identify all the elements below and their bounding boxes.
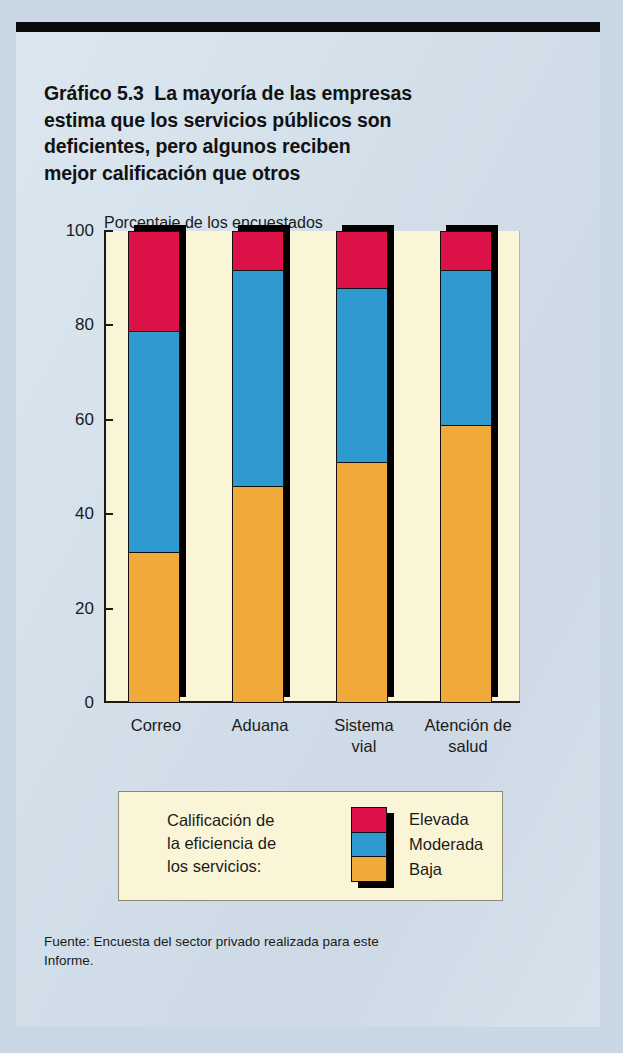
bar-segment-moderada[interactable] [337,288,387,462]
x-axis-tick-label: Atención desalud [410,715,526,757]
x-axis-label-line: vial [306,736,422,757]
bar-group[interactable] [232,231,290,703]
source-note: Fuente: Encuesta del sector privado real… [44,932,494,970]
legend-swatches-stack [351,807,387,882]
legend-swatch-moderada [352,832,386,857]
bar-segment-baja[interactable] [441,425,491,702]
y-axis-tick-label: 0 [46,693,94,713]
bar-group[interactable] [128,231,186,703]
bar-stack[interactable] [440,231,492,703]
source-line: Informe. [44,951,494,970]
y-axis-tick-label: 100 [46,221,94,241]
bar-segment-moderada[interactable] [233,270,283,486]
bar-group[interactable] [440,231,498,703]
bar-segment-elevada[interactable] [233,232,283,270]
legend-caption: Calificación dela eficiencia delos servi… [167,809,276,878]
y-axis-tick-label: 40 [46,504,94,524]
bar-segment-elevada[interactable] [337,232,387,288]
legend-label-elevada: Elevada [409,810,469,829]
x-axis-label-line: Aduana [202,715,318,736]
legend-caption-line: los servicios: [167,855,276,878]
bar-stack[interactable] [232,231,284,703]
bar-segment-moderada[interactable] [441,270,491,425]
x-axis-tick-label: Correo [98,715,214,736]
legend-caption-line: Calificación de [167,809,276,832]
source-line: Fuente: Encuesta del sector privado real… [44,932,494,951]
y-axis-tick-mark [104,608,113,610]
legend-label-moderada: Moderada [409,835,483,854]
x-axis-label-line: Correo [98,715,214,736]
y-axis-tick-mark [104,230,113,232]
y-axis-tick-label: 20 [46,599,94,619]
x-axis-tick-label: Sistemavial [306,715,422,757]
legend-swatch-baja [352,856,386,881]
bar-stack[interactable] [128,231,180,703]
x-axis-label-line: Atención de [410,715,526,736]
y-axis-tick-mark [104,419,113,421]
bar-segment-baja[interactable] [129,552,179,702]
legend-swatch-elevada [352,808,386,832]
figure-panel: Gráfico 5.3 La mayoría de las empresases… [16,22,600,1027]
bar-segment-moderada[interactable] [129,331,179,552]
y-axis-tick-mark [104,324,113,326]
chart-legend: Calificación dela eficiencia delos servi… [118,791,503,901]
bar-segment-baja[interactable] [337,462,387,702]
bar-group[interactable] [336,231,394,703]
bar-stack[interactable] [336,231,388,703]
y-axis-tick-mark [104,513,113,515]
bar-segment-elevada[interactable] [129,232,179,331]
bar-segment-elevada[interactable] [441,232,491,270]
y-axis-tick-label: 60 [46,410,94,430]
legend-caption-line: la eficiencia de [167,832,276,855]
x-axis-tick-label: Aduana [202,715,318,736]
legend-label-baja: Baja [409,860,442,879]
bar-segment-baja[interactable] [233,486,283,702]
x-axis-label-line: salud [410,736,526,757]
y-axis-tick-label: 80 [46,315,94,335]
x-axis-label-line: Sistema [306,715,422,736]
